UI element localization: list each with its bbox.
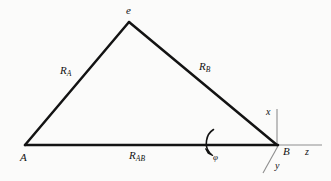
axis-label-y: y <box>275 161 279 171</box>
axis-label-x: x <box>266 107 270 117</box>
baseline-label-RAB: RAB <box>129 150 145 161</box>
side-label-RA-sub: A <box>67 69 72 78</box>
side-label-RA-base: R <box>60 64 67 76</box>
side-label-RA: RA <box>60 65 72 76</box>
apex-label-e: e <box>126 5 131 16</box>
edge-RB <box>129 22 277 145</box>
vertex-label-b: B <box>283 146 290 157</box>
side-label-RB: RB <box>199 61 211 72</box>
axis-label-z: z <box>305 147 309 157</box>
vertex-label-a: A <box>20 152 27 163</box>
rotation-angle-label-phi: φ <box>213 153 218 162</box>
rotation-arrowhead <box>206 149 213 156</box>
side-label-RB-sub: B <box>206 65 211 74</box>
rotation-arc <box>206 130 213 153</box>
edge-RA <box>25 22 129 145</box>
figure-canvas: e RA RB RAB A B x y z φ <box>0 0 331 181</box>
triangle-group <box>25 22 278 145</box>
diagram-svg <box>0 0 331 181</box>
baseline-label-RAB-base: R <box>129 149 136 161</box>
side-label-RB-base: R <box>199 60 206 72</box>
baseline-label-RAB-sub: AB <box>136 154 146 163</box>
